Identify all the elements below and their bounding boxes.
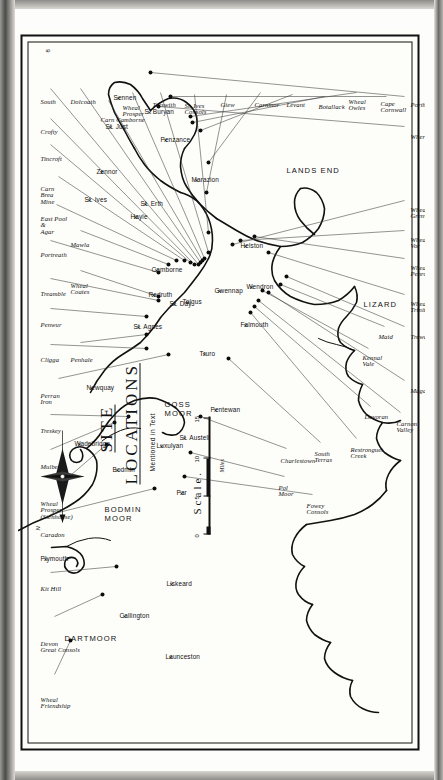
site-dot[interactable] xyxy=(182,474,186,478)
site-label[interactable]: WhealFriendship xyxy=(40,696,70,709)
site-label-line: Coates xyxy=(70,288,89,294)
site-dot[interactable] xyxy=(206,230,210,234)
site-label[interactable]: Magdalen xyxy=(410,386,425,393)
site-label[interactable]: Caradon xyxy=(40,530,64,537)
site-label[interactable]: WhealGrenville xyxy=(410,206,425,219)
map-page: WhealFriendshipDevonGreat ConsolsKit Hil… xyxy=(0,0,443,780)
site-label[interactable]: WhealVor xyxy=(410,236,425,249)
site-label[interactable]: PolMoor xyxy=(278,484,293,497)
site-label[interactable]: CarnonValley xyxy=(396,420,417,433)
town-cross-icon: × xyxy=(113,468,120,472)
site-label[interactable]: Cligga xyxy=(40,355,59,362)
site-dot[interactable] xyxy=(144,332,148,336)
site-dot[interactable] xyxy=(278,282,282,286)
site-label[interactable]: Crofty xyxy=(40,127,57,134)
site-dot[interactable] xyxy=(174,258,178,262)
site-dot[interactable] xyxy=(266,250,270,254)
site-label[interactable]: WhealTrinity xyxy=(410,300,425,313)
site-label[interactable]: Trewavas xyxy=(410,332,425,339)
site-label[interactable]: East Pool&Agar xyxy=(40,215,67,234)
site-label[interactable]: Treamble xyxy=(40,289,65,296)
site-dot[interactable] xyxy=(100,592,104,596)
site-label[interactable]: KennalVale xyxy=(362,354,382,367)
plate-number: 8 xyxy=(44,49,50,52)
site-label[interactable]: SouthTerras xyxy=(314,450,332,463)
site-label-line: Iron xyxy=(40,398,59,404)
site-label[interactable]: RestronguetCreek xyxy=(350,446,383,459)
site-dot[interactable] xyxy=(166,352,170,356)
site-dot[interactable] xyxy=(284,274,288,278)
site-label[interactable]: Wherry xyxy=(410,132,425,139)
site-label[interactable]: Porthcurno xyxy=(410,100,425,107)
site-dot[interactable] xyxy=(230,242,234,246)
site-label[interactable]: PerranIron xyxy=(40,392,59,405)
site-dot[interactable] xyxy=(226,356,230,360)
site-label-line: Devoran xyxy=(364,412,388,419)
site-dot[interactable] xyxy=(168,94,172,98)
site-dot[interactable] xyxy=(144,346,148,350)
site-label[interactable]: Botallack xyxy=(318,102,344,109)
site-label[interactable]: Giew xyxy=(220,100,234,107)
site-label[interactable]: Kit Hill xyxy=(40,584,61,591)
site-dot[interactable] xyxy=(248,310,252,314)
site-label[interactable]: Mawla xyxy=(70,240,89,247)
town-cross-icon: × xyxy=(167,582,174,586)
site-label-line: Botallack xyxy=(318,102,344,109)
site-label[interactable]: St. IvesConsols xyxy=(184,102,206,115)
scale-title: Scale. xyxy=(190,469,202,514)
map-plate-wrapper: WhealFriendshipDevonGreat ConsolsKit Hil… xyxy=(18,28,425,752)
site-label[interactable]: South xyxy=(40,97,56,104)
site-label[interactable]: Treswith xyxy=(152,100,175,107)
site-label[interactable]: CarnBreaMine xyxy=(40,185,54,204)
site-dot[interactable] xyxy=(152,486,156,490)
site-label-line: Crofty xyxy=(40,127,57,134)
site-dot[interactable] xyxy=(148,70,152,74)
site-label[interactable]: WhealCoates xyxy=(70,282,89,295)
site-dot[interactable] xyxy=(266,290,270,294)
region-label-line: MOOR xyxy=(164,409,192,418)
site-dot[interactable] xyxy=(252,234,256,238)
site-dot[interactable] xyxy=(252,304,256,308)
site-label-line: Vor xyxy=(410,242,425,248)
site-label-line: Agar xyxy=(40,228,67,234)
region-label: LANDS END xyxy=(286,166,339,175)
site-dot[interactable] xyxy=(206,250,210,254)
site-dot[interactable] xyxy=(190,120,194,124)
site-label-line: Maid xyxy=(378,332,392,339)
site-label[interactable]: FoweyConsols xyxy=(306,502,328,515)
site-label[interactable]: Devoran xyxy=(364,412,388,419)
town-cross-icon: × xyxy=(161,138,168,142)
site-dot[interactable] xyxy=(256,298,260,302)
town-cross-icon: × xyxy=(241,244,248,248)
site-label[interactable]: Tincroft xyxy=(40,154,61,161)
site-label[interactable]: Dolcoath xyxy=(70,97,95,104)
site-label-line: Great Consols xyxy=(40,646,79,652)
site-label[interactable]: WhealProsper xyxy=(122,104,144,117)
site-label[interactable]: Penhale xyxy=(70,355,92,362)
site-label[interactable]: Levant xyxy=(286,100,305,107)
site-dot[interactable] xyxy=(144,314,148,318)
town-cross-icon: × xyxy=(106,125,113,129)
site-label[interactable]: Penwur xyxy=(40,320,61,327)
scale-tick-15 xyxy=(203,417,210,418)
site-label[interactable]: CapeCornwall xyxy=(380,100,406,113)
site-dot[interactable] xyxy=(202,256,206,260)
town-cross-icon: × xyxy=(183,300,190,304)
site-dot[interactable] xyxy=(188,450,192,454)
town-cross-icon: × xyxy=(157,444,164,448)
site-label[interactable]: Carnmor xyxy=(254,100,279,107)
site-label-line: Portreath xyxy=(40,250,66,257)
site-label[interactable]: WhealPenrose xyxy=(410,264,425,277)
site-dot[interactable] xyxy=(114,564,118,568)
site-dot[interactable] xyxy=(198,128,202,132)
site-label[interactable]: Portreath xyxy=(40,250,66,257)
site-label[interactable]: WhealOwles xyxy=(348,98,365,111)
site-label-line: Friendship xyxy=(40,702,70,708)
site-label[interactable]: Charlestown xyxy=(280,456,315,463)
site-label[interactable]: Maid xyxy=(378,332,392,339)
site-label-line: Trinity xyxy=(410,306,425,312)
site-dot[interactable] xyxy=(206,160,210,164)
site-dot[interactable] xyxy=(182,258,186,262)
site-dot[interactable] xyxy=(204,190,208,194)
scale-unit-label: Miles xyxy=(218,459,224,472)
